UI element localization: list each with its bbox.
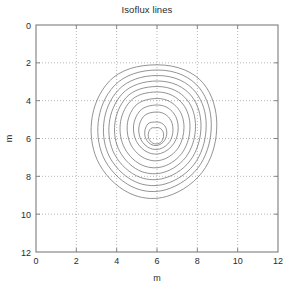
x-tick-label-6: 6 xyxy=(154,256,159,266)
x-tick-label-8: 8 xyxy=(195,256,200,266)
y-tick-label-2: 2 xyxy=(26,58,31,68)
y-tick-label-4: 4 xyxy=(26,96,31,106)
x-tick-label-4: 4 xyxy=(114,256,119,266)
x-axis-label: m xyxy=(153,273,161,283)
x-tick-labels: 0 2 4 6 8 10 12 xyxy=(33,256,283,266)
y-tick-labels: 0 2 4 6 8 10 12 xyxy=(21,21,31,258)
y-axis-label: m xyxy=(4,135,14,143)
figure-canvas: Isoflux lines xyxy=(0,0,294,293)
x-tick-label-10: 10 xyxy=(233,256,243,266)
x-tick-label-2: 2 xyxy=(74,256,79,266)
x-tick-label-12: 12 xyxy=(273,256,283,266)
y-tick-label-6: 6 xyxy=(26,134,31,144)
x-tick-label-0: 0 xyxy=(33,256,38,266)
y-tick-label-12: 12 xyxy=(21,248,31,258)
y-tick-label-8: 8 xyxy=(26,172,31,182)
y-tick-label-0: 0 xyxy=(26,21,31,31)
contour-plot: 0 2 4 6 8 10 12 0 2 4 6 8 10 12 m m xyxy=(0,0,294,293)
y-tick-label-10: 10 xyxy=(21,210,31,220)
